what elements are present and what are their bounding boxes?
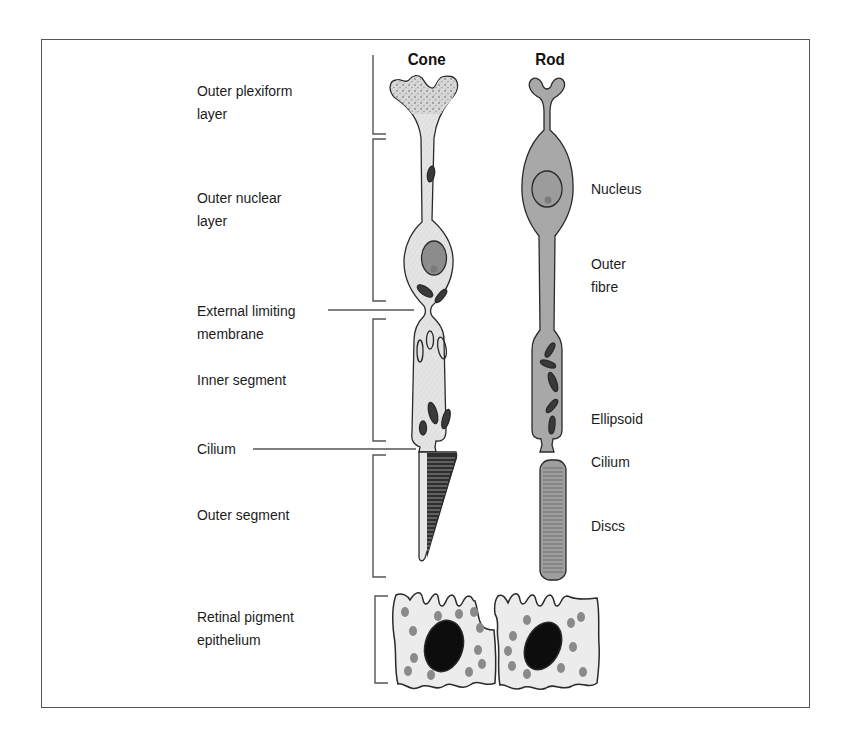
rod-discs [543, 468, 563, 572]
bracket-rpe [375, 596, 388, 683]
bracket-inner-segment [373, 319, 386, 441]
rpe-cells [393, 593, 600, 690]
bracket-outer-plexiform [373, 55, 386, 134]
bracket-outer-segment [373, 455, 386, 577]
photoreceptor-diagram [0, 0, 852, 746]
bracket-outer-nuclear [373, 139, 386, 301]
cone-cell [390, 76, 457, 561]
pointer-lines [253, 310, 416, 449]
layer-brackets [373, 55, 388, 683]
rod-cell [522, 78, 573, 580]
